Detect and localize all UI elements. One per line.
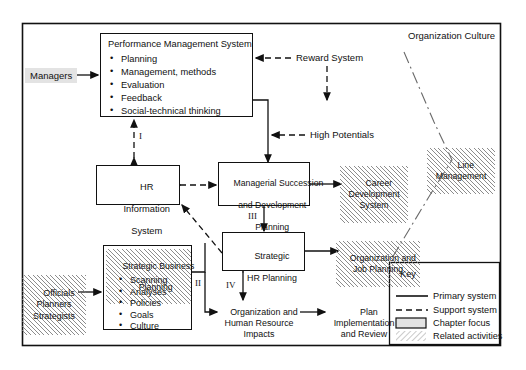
officials-text: Officials Planners Strategists: [33, 288, 75, 321]
msdp-line-1: Managerial Succession: [233, 178, 323, 188]
output-organization-hr-impacts: Organization and Human Resource Impacts: [218, 296, 300, 351]
career-dev-text: Career Development System: [348, 178, 399, 210]
key-label-primary-system: Primary system: [433, 291, 496, 302]
list-item: Scanning: [119, 275, 168, 287]
output-plan-implementation-review: Plan Implementation and Review: [326, 296, 402, 351]
msdp-line-2: and Development: [238, 200, 306, 210]
organization-culture-label: Organization Culture: [408, 30, 495, 41]
msdp-line-3: Planning: [255, 222, 289, 232]
numeral-iii: III: [248, 211, 257, 222]
numeral-i: I: [139, 131, 142, 142]
sbp-line-1: Strategic Business: [122, 261, 194, 271]
list-item: Feedback: [110, 92, 221, 105]
list-item: Evaluation: [110, 79, 221, 92]
line-sbp-to-impacts: [205, 272, 217, 312]
key-label-related-activities: Related activities: [433, 331, 502, 342]
pms-item-list: Planning Management, methods Evaluation …: [110, 53, 221, 118]
box-strategic-hr-planning: Strategic HR Planning: [222, 232, 305, 271]
box-performance-management-system: Performance Management System Planning M…: [100, 33, 253, 117]
list-item: Policies: [119, 298, 168, 310]
hris-label: HR Information System: [97, 171, 181, 248]
box-managerial-succession-development-planning: Managerial Succession and Development Pl…: [218, 162, 310, 206]
shrp-line-1: Strategic: [254, 251, 289, 261]
numeral-iv: IV: [226, 280, 236, 291]
list-item: Social-technical thinking: [110, 105, 221, 118]
related-career-development-system: Career Development System: [340, 166, 408, 223]
related-organization-job-planning: Organization and Job Planning: [336, 241, 420, 287]
list-item: Analyses: [119, 287, 168, 299]
actor-managers: Managers: [25, 68, 77, 83]
input-reward-system: Reward System: [296, 52, 363, 63]
hris-line-3: System: [131, 226, 162, 236]
list-item: Culture: [119, 321, 168, 333]
related-line-management: Line Management: [427, 148, 495, 194]
sbp-item-list: Scanning Analyses Policies Goals Culture: [119, 275, 168, 333]
diagram-canvas: Organization Culture Managers Performanc…: [0, 0, 526, 370]
input-high-potentials: High Potentials: [310, 129, 374, 140]
numeral-ii: II: [195, 278, 201, 289]
org-hr-impacts-text: Organization and Human Resource Impacts: [224, 307, 297, 339]
hris-line-1: HR: [140, 182, 153, 192]
pms-title: Performance Management System: [108, 39, 252, 50]
key-label-support-system: Support system: [433, 305, 497, 316]
box-hr-information-system: HR Information System: [96, 165, 180, 205]
line-management-text: Line Management: [436, 160, 487, 181]
plan-impl-text: Plan Implementation and Review: [334, 307, 395, 339]
list-item: Planning: [110, 53, 221, 66]
actor-officials-planners-strategists: Officials Planners Strategists: [22, 275, 86, 335]
key-label-chapter-focus: Chapter focus: [433, 318, 490, 329]
key-title: Key: [400, 269, 416, 280]
shrp-line-2: HR Planning: [247, 273, 297, 283]
line-pms-to-msdp: [253, 100, 268, 162]
list-item: Management, methods: [110, 66, 221, 79]
box-strategic-business-planning: Strategic Business Planning Scanning Ana…: [103, 245, 192, 330]
list-item: Goals: [119, 310, 168, 322]
hris-line-2: Information: [123, 204, 170, 214]
